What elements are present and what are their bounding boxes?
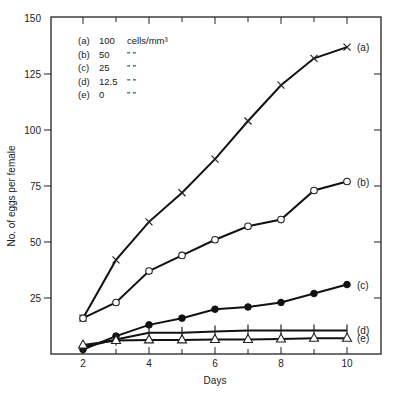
open-circle-marker-icon xyxy=(311,187,318,194)
open-circle-marker-icon xyxy=(80,315,87,322)
series-end-label: (a) xyxy=(357,42,369,53)
x-tick-label: 8 xyxy=(278,358,284,369)
filled-circle-marker-icon xyxy=(344,281,351,288)
cross-marker-icon xyxy=(179,189,186,196)
open-circle-marker-icon xyxy=(179,252,186,259)
legend-unit: ” ” xyxy=(127,76,136,87)
x-tick-label: 10 xyxy=(341,358,353,369)
x-tick-label: 6 xyxy=(212,358,218,369)
legend-value: 25 xyxy=(99,62,110,73)
series-a: (a) xyxy=(80,42,370,322)
legend-unit: ” ” xyxy=(127,89,136,100)
y-tick-label: 75 xyxy=(30,181,42,192)
x-tick-label: 2 xyxy=(80,358,86,369)
legend-key: (e) xyxy=(78,89,90,100)
series-c: (c) xyxy=(80,280,369,353)
legend-value: 50 xyxy=(99,49,110,60)
y-tick-label: 50 xyxy=(30,237,42,248)
y-axis-label: No. of eggs per female xyxy=(6,145,17,247)
chart-canvas: 246810255075100125150 (a)(b)(c)(d)(e) (a… xyxy=(0,0,393,393)
cross-marker-icon xyxy=(245,118,252,125)
legend-unit: ” ” xyxy=(127,62,136,73)
filled-circle-marker-icon xyxy=(311,290,318,297)
x-tick-label: 4 xyxy=(146,358,152,369)
x-axis-label: Days xyxy=(204,375,227,386)
series-line xyxy=(83,47,347,318)
open-circle-marker-icon xyxy=(146,268,153,275)
cross-marker-icon xyxy=(146,218,153,225)
cross-marker-icon xyxy=(113,256,120,263)
legend-value: 0 xyxy=(99,89,104,100)
series-line xyxy=(83,182,347,319)
open-circle-marker-icon xyxy=(113,299,120,306)
cross-marker-icon xyxy=(212,156,219,163)
y-tick-label: 150 xyxy=(24,13,41,24)
open-circle-marker-icon xyxy=(245,223,252,230)
y-tick-label: 125 xyxy=(24,69,41,80)
series-end-label: (b) xyxy=(357,177,369,188)
series-end-label: (c) xyxy=(357,280,369,291)
filled-circle-marker-icon xyxy=(179,315,186,322)
legend-value: 100 xyxy=(99,35,115,46)
legend-key: (d) xyxy=(78,76,90,87)
filled-circle-marker-icon xyxy=(212,306,219,313)
open-circle-marker-icon xyxy=(212,236,219,243)
legend: (a)100cells/mm³(b)50” ”(c)25” ”(d)12.5” … xyxy=(78,35,168,100)
series-end-label: (e) xyxy=(357,333,369,344)
series-b: (b) xyxy=(80,177,370,322)
triangle-marker-icon xyxy=(211,334,220,342)
series-e: (e) xyxy=(79,333,370,348)
legend-value: 12.5 xyxy=(99,76,118,87)
open-circle-marker-icon xyxy=(278,216,285,223)
triangle-marker-icon xyxy=(145,335,154,343)
filled-circle-marker-icon xyxy=(245,304,252,311)
legend-unit: cells/mm³ xyxy=(127,35,168,46)
filled-circle-marker-icon xyxy=(278,299,285,306)
triangle-marker-icon xyxy=(343,333,352,341)
legend-key: (b) xyxy=(78,49,90,60)
open-circle-marker-icon xyxy=(344,178,351,185)
data-series: (a)(b)(c)(d)(e) xyxy=(79,42,370,353)
y-tick-label: 100 xyxy=(24,125,41,136)
cross-marker-icon xyxy=(278,82,285,89)
legend-unit: ” ” xyxy=(127,49,136,60)
triangle-marker-icon xyxy=(310,333,319,341)
y-tick-label: 25 xyxy=(30,293,42,304)
legend-key: (c) xyxy=(78,62,89,73)
legend-key: (a) xyxy=(78,35,90,46)
